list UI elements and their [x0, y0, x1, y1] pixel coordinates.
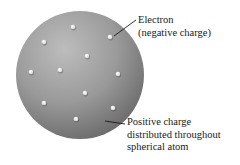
- electron-dot: [42, 101, 47, 106]
- electron-dot: [85, 54, 90, 59]
- electron-label-line1: Electron: [138, 14, 211, 27]
- positive-charge-label: Positive charge distributed throughout s…: [127, 116, 221, 154]
- electron-dot: [74, 117, 79, 122]
- electron-dot: [42, 40, 47, 45]
- electron-dot: [71, 25, 76, 30]
- positive-charge-label-line3: spherical atom: [127, 141, 221, 154]
- electron-dot: [29, 70, 34, 75]
- electron-dot: [116, 72, 121, 77]
- positive-charge-label-line2: distributed throughout: [127, 129, 221, 142]
- positive-charge-label-line1: Positive charge: [127, 116, 221, 129]
- electron-dot: [58, 68, 63, 73]
- positive-charge-sphere: [16, 11, 144, 139]
- electron-dot: [83, 91, 88, 96]
- electron-label-line2: (negative charge): [138, 27, 211, 40]
- electron-label: Electron (negative charge): [138, 14, 211, 39]
- electron-dot: [111, 106, 116, 111]
- electron-dot: [108, 35, 113, 40]
